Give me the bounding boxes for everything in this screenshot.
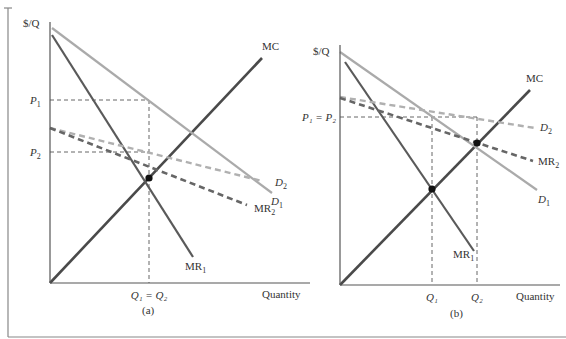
quantity-label: Q₁: [426, 291, 438, 303]
equilibrium-dot: [428, 185, 435, 192]
price-label: P₁ = P₂: [301, 111, 336, 123]
curves: [50, 28, 272, 283]
mr2-curve: [50, 128, 247, 205]
d1-curve: [52, 28, 272, 193]
mr2-label: MR2: [538, 155, 559, 170]
d2-label: D2: [274, 176, 287, 191]
y-axis-label: $/Q: [313, 45, 330, 57]
price-label: P1: [29, 94, 41, 109]
x-axis-label: Quantity: [262, 288, 301, 300]
x-axis-label: Quantity: [516, 290, 555, 302]
curves: [340, 52, 537, 285]
d1-label: D1: [537, 193, 550, 208]
quantity-label: Q₂: [471, 291, 483, 303]
y-axis-label: $/Q: [23, 17, 40, 29]
guide-lines: [50, 100, 149, 283]
equilibrium-dot: [473, 139, 480, 146]
panel-a: $/Q Quantity (a) MCD1MR1D2MR2P1P2Q₁ = Q₂: [23, 17, 310, 317]
mr1-curve: [345, 62, 474, 251]
mr1-label: MR1: [185, 260, 206, 275]
axes: [50, 22, 310, 283]
mc-label: MC: [526, 72, 543, 84]
mr2-curve: [340, 98, 533, 161]
mr1-label: MR1: [453, 248, 474, 263]
d2-curve: [50, 128, 262, 181]
mc-label: MC: [262, 40, 279, 52]
d2-curve: [340, 97, 535, 128]
equilibrium-dot: [145, 174, 152, 181]
panel-caption: (b): [450, 307, 463, 320]
d1-curve: [340, 52, 537, 190]
monopoly-demand-shift-diagram: $/Q Quantity (a) MCD1MR1D2MR2P1P2Q₁ = Q₂…: [0, 0, 566, 339]
panel-b: $/Q Quantity (b) MCD1MR1D2MR2P₁ = P₂Q₁Q₂: [301, 45, 560, 320]
d2-label: D2: [539, 121, 552, 136]
equilibrium-dots: [145, 174, 152, 181]
panel-caption: (a): [142, 304, 155, 317]
price-label: P2: [29, 146, 41, 161]
quantity-label: Q₁ = Q₂: [131, 289, 168, 301]
